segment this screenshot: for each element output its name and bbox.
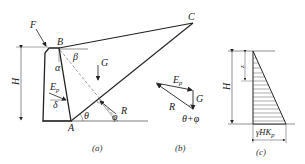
- triangle-g-label: G: [196, 93, 203, 104]
- triangle-ep-label: Ep: [172, 74, 183, 86]
- retaining-wall: [43, 48, 71, 121]
- phi-label: φ: [112, 111, 118, 122]
- triangle-r-label: R: [168, 101, 175, 112]
- delta-label: δ: [53, 99, 58, 110]
- passive-earth-pressure-diagram: H F B C A β α G Ep δ θ R φ (a): [0, 0, 305, 164]
- triangle-angle-label: θ+φ: [182, 113, 200, 124]
- reaction-r-label: R: [120, 105, 127, 116]
- c-height-label: H: [221, 82, 232, 91]
- panel-b: Ep G R θ+φ (b): [156, 74, 203, 153]
- depth-z-label: z: [238, 65, 246, 69]
- panel-a: H F B C A β α G Ep δ θ R φ (a): [10, 11, 195, 153]
- alpha-label: α: [55, 62, 61, 73]
- passive-force-label: Ep: [49, 81, 60, 93]
- height-label: H: [10, 77, 21, 86]
- caption-a: (a): [92, 143, 103, 153]
- base-pressure-label: γHKp: [256, 127, 275, 138]
- backfill-surface-line: [59, 23, 193, 48]
- point-c-label: C: [188, 11, 195, 22]
- beta-label: β: [72, 51, 78, 62]
- point-b-label: B: [57, 36, 63, 47]
- force-f-arrow: [36, 29, 46, 46]
- caption-c: (c): [256, 147, 266, 157]
- theta-label: θ: [84, 110, 89, 121]
- weight-g-label: G: [101, 57, 108, 68]
- panel-c: H z γHKp (c): [221, 51, 295, 157]
- point-a-label: A: [67, 122, 75, 133]
- point-f-label: F: [29, 19, 37, 30]
- caption-b: (b): [175, 143, 186, 153]
